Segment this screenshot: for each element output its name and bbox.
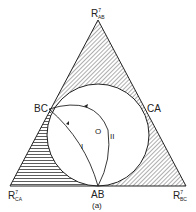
diagram-canvas	[0, 0, 196, 212]
tangent-label-bc: BC	[34, 104, 48, 114]
vertex-label-bottom-left: R7CA	[8, 190, 22, 202]
path-label-II: II	[110, 133, 114, 141]
center-label: O	[95, 128, 101, 136]
tangent-label-ab: AB	[91, 190, 104, 200]
figure-caption: (a)	[92, 202, 102, 210]
tangent-label-ca: CA	[147, 104, 161, 114]
path-label-I: I	[81, 143, 83, 151]
vertex-label-bottom-right: R7BC	[173, 190, 187, 202]
vertex-label-top: R7AB	[91, 8, 105, 20]
